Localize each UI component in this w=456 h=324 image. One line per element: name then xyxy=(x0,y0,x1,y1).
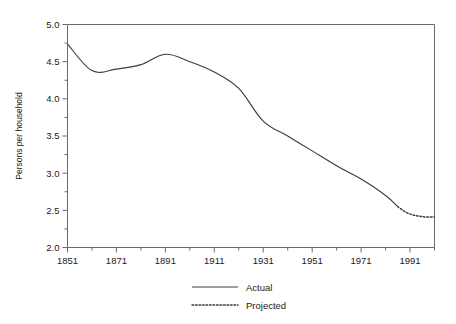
plot-frame-path xyxy=(68,25,435,248)
y-axis-title: Persons per household xyxy=(14,92,24,180)
chart-legend: Actual Projected xyxy=(192,282,286,311)
series-line-actual xyxy=(68,44,398,207)
y-tick-label: 2.0 xyxy=(46,242,59,253)
x-tick-label: 1951 xyxy=(302,255,323,266)
x-axis-tick-labels: 18511871189119111931195119711991 xyxy=(57,255,421,266)
x-tick-label: 1971 xyxy=(351,255,372,266)
x-tick-label: 1911 xyxy=(204,255,224,266)
x-tick-label: 1851 xyxy=(57,255,78,266)
y-tick-label: 3.5 xyxy=(46,130,59,141)
series-line-projected xyxy=(398,207,435,217)
y-tick-label: 4.0 xyxy=(46,93,59,104)
y-axis-major-ticks xyxy=(63,25,68,248)
y-tick-label: 5.0 xyxy=(46,19,59,30)
x-tick-label: 1871 xyxy=(106,255,127,266)
y-tick-label: 2.5 xyxy=(46,205,59,216)
legend-label-projected: Projected xyxy=(246,300,286,311)
x-tick-label: 1931 xyxy=(253,255,274,266)
y-tick-label: 4.5 xyxy=(46,56,59,67)
chart-container: 2.02.53.03.54.04.55.0 185118711891191119… xyxy=(0,0,456,324)
x-tick-label: 1891 xyxy=(155,255,176,266)
y-axis-tick-labels: 2.02.53.03.54.04.55.0 xyxy=(46,19,59,253)
line-chart: 2.02.53.03.54.04.55.0 185118711891191119… xyxy=(0,0,456,324)
plot-frame xyxy=(68,25,435,248)
legend-label-actual: Actual xyxy=(246,282,272,293)
data-series-group xyxy=(68,44,435,217)
y-tick-label: 3.0 xyxy=(46,168,59,179)
x-tick-label: 1991 xyxy=(399,255,420,266)
